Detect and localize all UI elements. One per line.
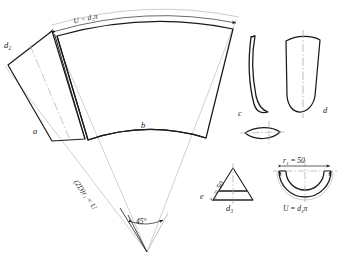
semicircle-dimension-label: U = d₃π xyxy=(283,204,308,213)
drawing-canvas: U = d₂π d₂ a b (2D)r₁ = U 45° c d e r₁ =… xyxy=(0,0,337,254)
part-c-label: c xyxy=(238,108,242,118)
part-a-label: a xyxy=(33,126,37,136)
left-diameter-label: d₂ xyxy=(4,40,11,50)
triangle-base-label: d₃ xyxy=(226,203,233,213)
angle-label: 45° xyxy=(136,217,147,226)
part-b-label: b xyxy=(141,120,145,130)
technical-drawing: U = d₂π d₂ a b (2D)r₁ = U 45° c d e r₁ =… xyxy=(0,0,337,254)
part-e-label: e xyxy=(200,191,204,201)
semicircle-radius-label: r₁ = 50 xyxy=(283,156,305,165)
sheet-background xyxy=(0,0,337,254)
